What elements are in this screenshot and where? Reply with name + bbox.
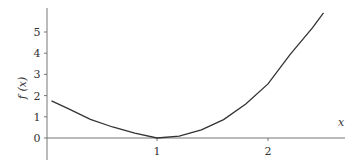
function-curve: [52, 13, 324, 138]
svg-text:2: 2: [34, 90, 41, 103]
svg-text:5: 5: [34, 26, 41, 39]
svg-text:3: 3: [34, 68, 41, 81]
line-chart: 012345 12 x f (x): [0, 0, 361, 167]
svg-text:1: 1: [34, 111, 41, 124]
svg-text:2: 2: [265, 145, 272, 158]
svg-text:4: 4: [34, 47, 41, 60]
x-ticks: 12: [154, 138, 272, 158]
svg-text:1: 1: [154, 145, 161, 158]
y-axis-label: f (x): [16, 77, 29, 100]
y-ticks: 012345: [34, 26, 48, 145]
svg-text:0: 0: [34, 132, 41, 145]
x-axis-label: x: [338, 116, 345, 129]
